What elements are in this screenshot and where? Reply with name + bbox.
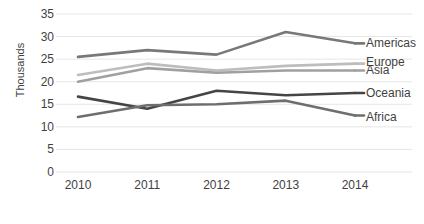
x-tick-label: 2010 [65, 178, 92, 192]
x-axis-tick-labels: 20102011201220132014 [0, 178, 424, 198]
x-tick-label: 2011 [134, 178, 160, 192]
x-tick-label: 2012 [203, 178, 230, 192]
x-tick-label: 2013 [272, 178, 299, 192]
series-line-americas [78, 32, 355, 57]
line-chart: Thousands 05101520253035 201020112012201… [0, 0, 424, 224]
x-tick-label: 2014 [342, 178, 369, 192]
